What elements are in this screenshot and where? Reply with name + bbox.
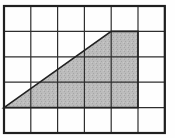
geometry-figure — [0, 0, 175, 138]
grid-trapezoid-diagram-svg — [0, 0, 175, 138]
